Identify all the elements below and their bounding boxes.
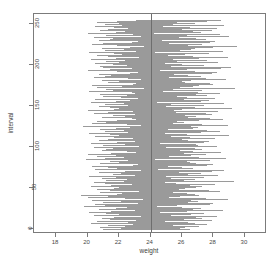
x-axis-tick-label: 20: [83, 239, 90, 245]
x-axis-tick-label: 28: [209, 239, 216, 245]
x-axis-tick-label: 30: [241, 239, 248, 245]
y-axis-tick: [29, 146, 33, 147]
interval-plot-figure: weight interval 182022242628300501001502…: [0, 0, 279, 265]
x-axis-tick: [87, 233, 88, 237]
x-axis-tick: [55, 233, 56, 237]
x-axis-tick-label: 22: [115, 239, 122, 245]
y-axis-title: interval: [8, 113, 15, 134]
x-axis-title: weight: [140, 248, 159, 255]
x-axis-tick: [212, 233, 213, 237]
x-axis-tick: [181, 233, 182, 237]
y-axis-tick-label: 250: [34, 23, 40, 33]
y-axis-tick: [29, 105, 33, 106]
y-axis-tick-label: 150: [34, 105, 40, 115]
x-axis-tick-label: 24: [146, 239, 153, 245]
x-axis-tick: [244, 233, 245, 237]
x-axis-tick: [118, 233, 119, 237]
y-axis-tick: [29, 64, 33, 65]
y-axis-tick-label: 0: [27, 228, 33, 231]
plot-panel: [33, 13, 266, 233]
reference-line-vertical: [151, 14, 152, 232]
x-axis-tick: [150, 233, 151, 237]
y-axis-tick: [29, 23, 33, 24]
y-axis-tick-label: 200: [34, 64, 40, 74]
x-axis-tick-label: 18: [52, 239, 59, 245]
y-axis-tick-label: 100: [34, 146, 40, 156]
x-axis-tick-label: 26: [178, 239, 185, 245]
interval-segment: [136, 20, 221, 21]
interval-segments-layer: [34, 14, 265, 232]
y-axis-tick-label: 50: [31, 187, 37, 194]
